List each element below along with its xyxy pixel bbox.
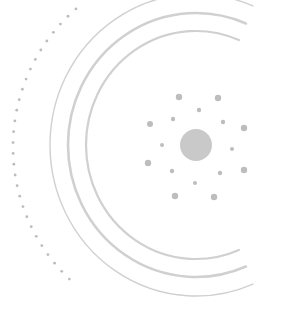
dotted-arc-dot xyxy=(67,15,70,18)
dotted-arc-dot xyxy=(30,225,33,228)
dot xyxy=(171,117,175,121)
dot xyxy=(170,169,174,173)
radial-illustration xyxy=(0,0,292,320)
dotted-arc-dot xyxy=(34,58,37,61)
dot xyxy=(160,143,164,147)
dotted-arc-dot xyxy=(35,235,38,238)
dotted-arc-dot xyxy=(15,109,18,112)
dot xyxy=(145,160,151,166)
dotted-arc-dot xyxy=(75,7,78,10)
dot xyxy=(197,108,201,112)
dotted-arc-dot xyxy=(53,262,56,265)
dotted-arc-dot xyxy=(22,205,25,208)
dotted-arc-dot xyxy=(18,195,21,198)
dot xyxy=(230,147,234,151)
dot xyxy=(221,120,225,124)
dotted-arc-dot xyxy=(21,88,24,91)
dotted-arc-dot xyxy=(25,78,28,81)
dotted-arc-dot xyxy=(14,174,17,177)
dotted-arc-dot xyxy=(39,49,42,52)
abstract-radial-graphic xyxy=(0,0,292,320)
dotted-arc-dot xyxy=(60,270,63,273)
dotted-arc-dot xyxy=(18,98,21,101)
dotted-arc-dot xyxy=(16,184,19,187)
dotted-arc-dot xyxy=(25,215,28,218)
dotted-arc-dot xyxy=(12,163,15,166)
dot xyxy=(215,95,221,101)
dotted-arc-dot xyxy=(47,253,50,256)
arc xyxy=(50,0,253,296)
center-circle xyxy=(180,129,212,161)
dotted-arc-dot xyxy=(40,244,43,247)
dotted-arc-dot xyxy=(68,278,71,281)
dotted-arc-dot xyxy=(45,40,48,43)
dotted-arc-dot xyxy=(12,141,15,144)
dotted-arc-dot xyxy=(29,68,32,71)
dot xyxy=(147,121,153,127)
dot xyxy=(218,171,222,175)
dot xyxy=(241,167,247,173)
dotted-arc-dot xyxy=(12,152,15,155)
dotted-arc-dot xyxy=(52,31,55,34)
dot xyxy=(211,194,217,200)
concentric-arcs xyxy=(50,0,253,296)
dot xyxy=(172,193,178,199)
dotted-arc-dot xyxy=(13,119,16,122)
dotted-arc-dot xyxy=(12,130,15,133)
dot xyxy=(193,181,197,185)
dot xyxy=(176,94,182,100)
dot xyxy=(241,125,247,131)
dotted-arc-dot xyxy=(59,23,62,26)
arc xyxy=(68,13,246,277)
